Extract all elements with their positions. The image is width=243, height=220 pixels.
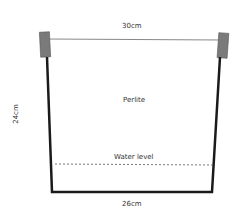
top-width-label: 30cm (122, 22, 142, 30)
water-level-line (55, 164, 213, 165)
bottom-width-label: 26cm (122, 200, 142, 208)
height-label: 24cm (12, 104, 20, 124)
top-wire (47, 39, 222, 40)
medium-label: Perlite (123, 96, 145, 104)
container-diagram (0, 0, 243, 220)
container-outline (47, 57, 220, 192)
water-level-label: Water level (114, 153, 154, 161)
left-post (39, 32, 50, 57)
right-post (217, 33, 229, 59)
